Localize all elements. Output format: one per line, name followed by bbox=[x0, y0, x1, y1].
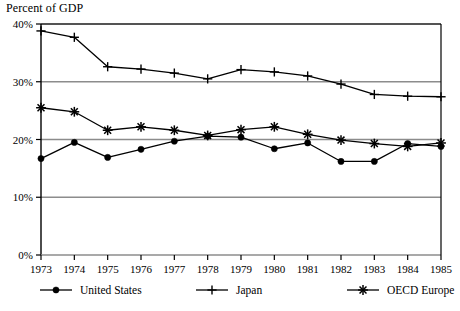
legend-label-0: United States bbox=[80, 284, 142, 296]
x-tick-label-1984: 1984 bbox=[397, 263, 420, 275]
data-point-2-1976 bbox=[136, 122, 146, 132]
x-tick-label-1979: 1979 bbox=[230, 263, 253, 275]
data-point-2-1984 bbox=[403, 142, 413, 152]
legend-label-2: OECD Europe bbox=[387, 284, 454, 297]
x-tick-label-1977: 1977 bbox=[163, 263, 186, 275]
legend-item-united-states: United States bbox=[40, 284, 142, 296]
series-japan bbox=[36, 26, 445, 101]
y-tick-label-40: 40% bbox=[13, 18, 33, 30]
series-oecd-europe bbox=[36, 103, 446, 151]
series-line-1 bbox=[41, 31, 441, 97]
series-united-states bbox=[38, 133, 444, 165]
data-point-2-1978 bbox=[203, 131, 213, 141]
x-tick-label-1978: 1978 bbox=[197, 263, 220, 275]
data-point-0-1980 bbox=[271, 146, 277, 152]
data-point-2-1982 bbox=[336, 135, 346, 145]
data-point-0-1983 bbox=[371, 158, 377, 164]
x-tick-label-1973: 1973 bbox=[30, 263, 53, 275]
x-tick-label-1980: 1980 bbox=[263, 263, 286, 275]
y-tick-label-30: 30% bbox=[13, 76, 33, 88]
x-tick-label-1976: 1976 bbox=[130, 263, 153, 275]
x-tick-label-1985: 1985 bbox=[430, 263, 453, 275]
legend-label-1: Japan bbox=[236, 284, 262, 297]
legend-marker-asterisk bbox=[358, 285, 368, 295]
data-point-2-1979 bbox=[236, 125, 246, 135]
y-tick-label-10: 10% bbox=[13, 191, 33, 203]
x-tick-label-1983: 1983 bbox=[363, 263, 386, 275]
series-group bbox=[36, 26, 446, 164]
chart-figure: Percent of GDP 0%10%20%30%40% 1973197419… bbox=[0, 0, 460, 311]
data-point-2-1974 bbox=[69, 107, 79, 117]
x-tick-label-1981: 1981 bbox=[297, 263, 319, 275]
data-point-2-1980 bbox=[269, 122, 279, 132]
data-point-0-1975 bbox=[105, 154, 111, 160]
line-chart-plot: 0%10%20%30%40% 1973197419751976197719781… bbox=[0, 0, 460, 311]
data-point-2-1983 bbox=[369, 139, 379, 149]
gridlines-group bbox=[41, 24, 441, 197]
data-point-2-1973 bbox=[36, 103, 46, 113]
y-axis-ticks: 0%10%20%30%40% bbox=[13, 18, 41, 261]
y-tick-label-20: 20% bbox=[13, 134, 33, 146]
legend-item-japan: Japan bbox=[196, 284, 262, 297]
data-point-0-1973 bbox=[38, 155, 44, 161]
x-tick-label-1975: 1975 bbox=[97, 263, 120, 275]
legend-item-oecd-europe: OECD Europe bbox=[347, 284, 454, 297]
data-point-2-1981 bbox=[303, 129, 313, 139]
data-point-0-1982 bbox=[338, 158, 344, 164]
y-tick-label-0: 0% bbox=[18, 249, 33, 261]
x-tick-label-1974: 1974 bbox=[63, 263, 86, 275]
data-point-2-1985 bbox=[436, 138, 446, 148]
data-point-0-1979 bbox=[238, 134, 244, 140]
x-tick-label-1982: 1982 bbox=[330, 263, 352, 275]
data-point-2-1977 bbox=[169, 125, 179, 135]
data-point-0-1976 bbox=[138, 146, 144, 152]
data-point-0-1977 bbox=[171, 138, 177, 144]
legend-marker-filled-circle bbox=[53, 287, 59, 293]
data-point-2-1975 bbox=[103, 125, 113, 135]
x-axis-ticks: 1973197419751976197719781979198019811982… bbox=[30, 255, 453, 275]
chart-legend: United StatesJapanOECD Europe bbox=[40, 284, 454, 297]
data-point-0-1981 bbox=[305, 140, 311, 146]
data-point-0-1974 bbox=[71, 139, 77, 145]
